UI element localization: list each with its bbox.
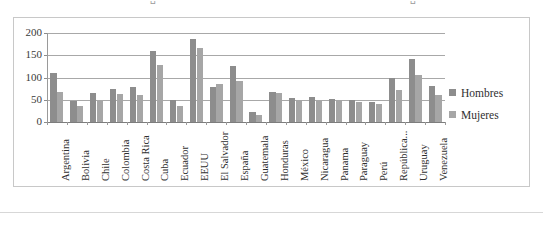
legend-item: Mujeres bbox=[449, 108, 531, 121]
x-axis-label: Uruguay bbox=[419, 144, 429, 181]
x-axis-label: Perú bbox=[379, 162, 389, 181]
top-cutoff-fragment-1: ␣ bbox=[150, 0, 156, 4]
x-axis-tick-mark bbox=[445, 122, 446, 125]
bottom-separator bbox=[0, 212, 543, 213]
bar-group bbox=[186, 33, 206, 122]
bar-group bbox=[147, 33, 167, 122]
bar-hombres bbox=[389, 78, 395, 123]
bar-group bbox=[127, 33, 147, 122]
bar-mujeres bbox=[316, 101, 322, 122]
bar-hombres bbox=[170, 100, 176, 122]
x-axis-labels: ArgentinaBoliviaChileColombiaCosta RicaC… bbox=[47, 125, 445, 183]
legend-item: Hombres bbox=[449, 86, 531, 99]
bar-group bbox=[246, 33, 266, 122]
bar-hombres bbox=[429, 86, 435, 122]
bar-mujeres bbox=[117, 94, 123, 122]
top-cutoff-fragment-2: · bbox=[233, 0, 236, 4]
bar-hombres bbox=[349, 100, 355, 122]
bar-mujeres bbox=[376, 104, 382, 122]
square-marker-icon bbox=[449, 89, 456, 96]
x-axis-label: Nicaragua bbox=[320, 138, 330, 181]
x-axis-label: Panama bbox=[340, 148, 350, 181]
top-cutoff-fragment-3: ␣ bbox=[410, 0, 416, 4]
legend-item-label: Mujeres bbox=[461, 109, 499, 121]
bar-hombres bbox=[50, 73, 56, 122]
bar-hombres bbox=[269, 92, 275, 122]
bar-hombres bbox=[369, 102, 375, 122]
bar-group bbox=[226, 33, 246, 122]
bar-hombres bbox=[309, 97, 315, 122]
chart-legend: Hombres Mujeres bbox=[449, 86, 531, 130]
bar-mujeres bbox=[296, 100, 302, 122]
square-marker-icon bbox=[449, 111, 456, 118]
bar-mujeres bbox=[415, 75, 421, 122]
x-axis-label: República... bbox=[399, 131, 409, 181]
bar-group bbox=[365, 33, 385, 122]
y-axis-tick-label: 50 bbox=[12, 94, 42, 105]
x-axis-label: EEUU bbox=[200, 153, 210, 181]
bar-mujeres bbox=[197, 48, 203, 122]
bar-group bbox=[286, 33, 306, 122]
bar-group bbox=[166, 33, 186, 122]
y-axis-tick-label: 150 bbox=[12, 49, 42, 60]
bar-group bbox=[385, 33, 405, 122]
bar-mujeres bbox=[396, 90, 402, 122]
bar-group bbox=[206, 33, 226, 122]
x-axis-label: Chile bbox=[101, 158, 111, 181]
x-axis-label: Honduras bbox=[280, 140, 290, 181]
bar-hombres bbox=[230, 66, 236, 122]
bar-group bbox=[425, 33, 445, 122]
bar-group bbox=[326, 33, 346, 122]
x-axis-label: España bbox=[240, 151, 250, 181]
bar-mujeres bbox=[157, 65, 163, 122]
x-axis-label: Bolivia bbox=[81, 150, 91, 181]
bars-layer bbox=[47, 33, 445, 122]
y-axis-tick-label: 0 bbox=[12, 116, 42, 127]
bar-mujeres bbox=[276, 93, 282, 122]
bar-hombres bbox=[289, 98, 295, 122]
bar-mujeres bbox=[256, 115, 262, 122]
bar-mujeres bbox=[97, 101, 103, 122]
bar-hombres bbox=[110, 89, 116, 122]
x-axis-label: Guatemala bbox=[260, 136, 270, 181]
x-axis-label: México bbox=[300, 149, 310, 181]
bar-hombres bbox=[90, 93, 96, 122]
bar-hombres bbox=[190, 39, 196, 122]
bar-hombres bbox=[150, 51, 156, 122]
y-axis-tick-label: 100 bbox=[12, 72, 42, 83]
bar-mujeres bbox=[356, 102, 362, 122]
top-cutoff-text: ␣ · ␣ bbox=[0, 0, 543, 9]
bar-group bbox=[47, 33, 67, 122]
bar-mujeres bbox=[137, 95, 143, 122]
bar-group bbox=[266, 33, 286, 122]
bar-group bbox=[346, 33, 366, 122]
x-axis-label: Ecuador bbox=[180, 146, 190, 181]
bar-hombres bbox=[210, 87, 216, 122]
legend-item-label: Hombres bbox=[461, 87, 503, 99]
bar-mujeres bbox=[236, 81, 242, 122]
x-axis-label: Colombia bbox=[121, 140, 131, 181]
bar-hombres bbox=[249, 112, 255, 122]
bar-mujeres bbox=[216, 84, 222, 122]
y-axis-tick-label: 200 bbox=[12, 27, 42, 38]
bar-group bbox=[87, 33, 107, 122]
bar-mujeres bbox=[435, 95, 441, 122]
x-axis-label: Venezuela bbox=[439, 138, 449, 181]
x-axis-label: El Salvador bbox=[220, 132, 230, 181]
bar-hombres bbox=[409, 59, 415, 122]
bar-mujeres bbox=[336, 100, 342, 122]
bar-mujeres bbox=[57, 92, 63, 122]
bar-mujeres bbox=[77, 106, 83, 122]
bar-hombres bbox=[130, 87, 136, 122]
bar-group bbox=[107, 33, 127, 122]
bar-mujeres bbox=[177, 106, 183, 122]
bar-group bbox=[405, 33, 425, 122]
x-axis-label: Costa Rica bbox=[141, 135, 151, 181]
x-axis-label: Paraguay bbox=[359, 142, 369, 181]
bar-group bbox=[306, 33, 326, 122]
bar-hombres bbox=[70, 101, 76, 122]
x-axis-label: Cuba bbox=[160, 159, 170, 181]
x-axis-label: Argentina bbox=[61, 139, 71, 181]
bar-hombres bbox=[329, 99, 335, 122]
bar-group bbox=[67, 33, 87, 122]
